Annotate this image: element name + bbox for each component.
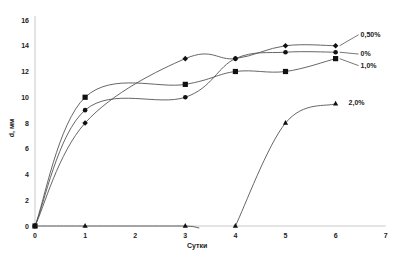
diamond-marker [333, 43, 339, 49]
circle-marker [183, 95, 188, 100]
y-tick-label: 6 [25, 145, 29, 152]
square-marker [233, 69, 238, 74]
circle-marker [333, 50, 338, 55]
circle-marker [283, 50, 288, 55]
triangle-marker [233, 223, 238, 228]
diamond-marker [283, 43, 289, 49]
y-tick-label: 10 [21, 94, 29, 101]
x-tick-label: 4 [233, 232, 237, 239]
circle-marker [83, 108, 88, 113]
y-tick-label: 0 [25, 223, 29, 230]
x-tick-label: 2 [133, 232, 137, 239]
circle-marker [233, 56, 238, 61]
y-tick-label: 4 [25, 171, 29, 178]
series-0-50- [32, 43, 338, 229]
square-marker [333, 56, 338, 61]
diamond-marker [183, 56, 189, 62]
axes: 012345670246810121416 [21, 16, 388, 239]
series-1-0- [32, 56, 338, 229]
series-line [35, 45, 336, 226]
label-leader-line [340, 59, 359, 66]
triangle-marker [83, 223, 88, 228]
series-label: 0% [361, 50, 372, 57]
series-layer [32, 43, 338, 229]
triangle-marker [183, 223, 188, 228]
y-tick-label: 8 [25, 120, 29, 127]
y-tick-label: 14 [21, 42, 29, 49]
y-tick-label: 12 [21, 68, 29, 75]
x-axis-title: Сутки [187, 242, 207, 250]
y-axis-title: d, мм [8, 119, 16, 138]
series-label: 2,0% [349, 99, 366, 107]
series-labels: 0,50%0%1,0%2,0% [340, 31, 382, 107]
x-tick-label: 1 [83, 232, 87, 239]
square-marker [183, 82, 188, 87]
x-tick-label: 5 [284, 232, 288, 239]
series-0- [33, 50, 338, 228]
x-tick-label: 0 [33, 232, 37, 239]
series-label: 0,50% [361, 31, 382, 39]
y-tick-label: 16 [21, 17, 29, 24]
square-marker [83, 95, 88, 100]
label-leader-line [340, 52, 359, 54]
series-line [35, 52, 336, 226]
label-leader-line [340, 35, 359, 46]
triangle-marker [333, 101, 338, 106]
x-tick-label: 3 [183, 232, 187, 239]
chart: 012345670246810121416 0,50%0%1,0%2,0% Су… [0, 0, 402, 263]
square-marker [283, 69, 288, 74]
x-tick-label: 7 [384, 232, 388, 239]
series-2-0- [32, 101, 338, 228]
line-chart-canvas: 012345670246810121416 0,50%0%1,0%2,0% Су… [0, 0, 402, 263]
y-tick-label: 2 [25, 197, 29, 204]
series-label: 1,0% [361, 62, 378, 70]
x-tick-label: 6 [334, 232, 338, 239]
